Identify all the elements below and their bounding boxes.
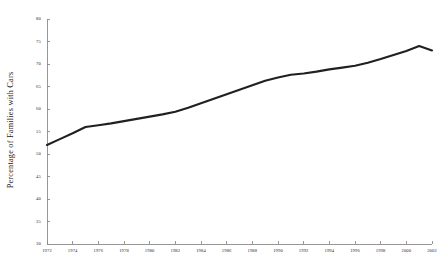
data-series-line — [47, 46, 432, 145]
axes-group — [47, 19, 432, 244]
chart-figure: Percentage of Families with Cars 8075706… — [0, 0, 447, 276]
line-chart-plot — [0, 0, 447, 276]
